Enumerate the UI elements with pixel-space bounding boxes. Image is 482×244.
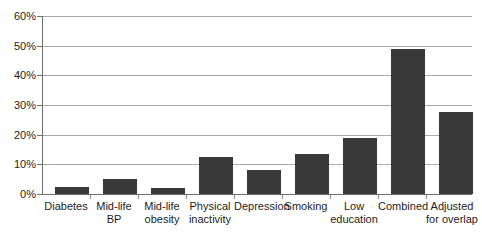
x-axis-tick-1 (90, 195, 91, 199)
gridline-60 (42, 16, 472, 17)
x-axis-tick-8 (426, 195, 427, 199)
bar-combined (391, 49, 425, 194)
x-axis-line (42, 194, 472, 195)
bar-smoking (295, 154, 329, 194)
bar-diabetes (55, 187, 89, 194)
y-axis-label-0: 0% (2, 189, 36, 200)
x-axis-label-depression: Depression (234, 200, 282, 213)
y-axis-label-60: 60% (2, 11, 36, 22)
x-axis-tick-4 (234, 195, 235, 199)
bar-low-education (343, 138, 377, 194)
x-axis-tick-2 (138, 195, 139, 199)
x-axis-tick-5 (282, 195, 283, 199)
bar-mid-life-bp (103, 179, 137, 194)
y-axis-label-40: 40% (2, 70, 36, 81)
y-axis-label-10: 10% (2, 159, 36, 170)
y-axis-line (42, 16, 43, 195)
x-axis-label-low-education: Low education (330, 200, 378, 226)
bar-adjusted-for-overlap (439, 112, 473, 194)
bar-depression (247, 170, 281, 194)
x-axis-label-smoking: Smoking (282, 200, 330, 213)
x-axis-tick-3 (186, 195, 187, 199)
x-axis-label-physical-inactivity: Physical inactivity (186, 200, 234, 226)
gridline-50 (42, 46, 472, 47)
x-axis-tick-6 (330, 195, 331, 199)
y-axis-label-50: 50% (2, 41, 36, 52)
x-axis-label-diabetes: Diabetes (42, 200, 90, 213)
x-axis-label-combined: Combined (378, 200, 426, 213)
y-axis-label-30: 30% (2, 100, 36, 111)
bar-physical-inactivity (199, 157, 233, 194)
x-axis-label-mid-life-obesity: Mid-life obesity (138, 200, 186, 226)
plot-area (42, 16, 472, 194)
x-axis-tick-7 (378, 195, 379, 199)
x-axis-label-mid-life-bp: Mid-life BP (90, 200, 138, 226)
y-axis-label-20: 20% (2, 130, 36, 141)
bar-chart: 60% 50% 40% 30% 20% 10% 0% (0, 0, 482, 244)
x-axis-label-adjusted-for-overlap: Adjusted for overlap (424, 200, 480, 226)
